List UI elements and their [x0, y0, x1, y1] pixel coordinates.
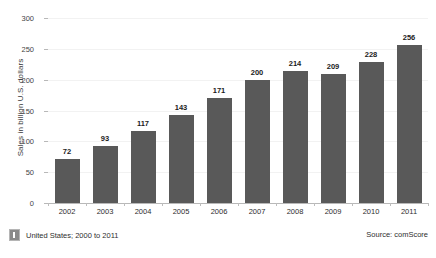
bar-group[interactable]: 256: [397, 18, 422, 203]
bar-chart-figure: Sales in billion U.S. dollars 0501001502…: [0, 0, 436, 258]
x-tick-mark: [124, 203, 125, 206]
bar-group[interactable]: 117: [131, 18, 156, 203]
bar[interactable]: [245, 80, 270, 203]
plot-area: 050100150200250300 729311714317120021420…: [48, 18, 428, 203]
bar[interactable]: [93, 146, 118, 203]
x-tick-mark: [238, 203, 239, 206]
x-tick-label-2011: 2011: [401, 207, 417, 216]
x-tick-label-2009: 2009: [325, 207, 342, 216]
bar[interactable]: [321, 74, 346, 203]
x-tick-label-2005: 2005: [173, 207, 190, 216]
x-tick-mark: [200, 203, 201, 206]
bar-series: 7293117143171200214209228256: [48, 18, 428, 203]
x-tick-label-2002: 2002: [59, 207, 76, 216]
x-tick-label-2010: 2010: [363, 207, 380, 216]
bar[interactable]: [397, 45, 422, 203]
bar-value-label: 228: [365, 50, 378, 59]
x-axis: 2002200320042005200620072008200920102011: [48, 203, 428, 219]
x-tick-mark: [162, 203, 163, 206]
x-tick-label-2007: 2007: [249, 207, 266, 216]
bar-group[interactable]: 228: [359, 18, 384, 203]
info-icon: [9, 229, 20, 241]
footer-source: Source: comScore: [366, 230, 428, 239]
footer-note: United States; 2000 to 2011: [9, 229, 118, 241]
x-tick-label-2008: 2008: [287, 207, 304, 216]
y-tick-label-200: 200: [0, 75, 34, 84]
bar-value-label: 200: [251, 68, 264, 77]
y-tick-label-250: 250: [0, 44, 34, 53]
bar[interactable]: [169, 115, 194, 203]
bar[interactable]: [131, 131, 156, 203]
x-tick-label-2006: 2006: [211, 207, 228, 216]
bar-group[interactable]: 214: [283, 18, 308, 203]
bar[interactable]: [283, 71, 308, 203]
chart-footer: United States; 2000 to 2011 Source: comS…: [0, 227, 436, 247]
y-tick-label-50: 50: [0, 168, 34, 177]
bar-value-label: 93: [101, 134, 109, 143]
y-tick-label-300: 300: [0, 14, 34, 23]
y-tick-label-0: 0: [0, 199, 34, 208]
bar-value-label: 214: [289, 59, 302, 68]
bar[interactable]: [55, 159, 80, 203]
bar-value-label: 117: [137, 119, 149, 128]
x-tick-mark: [314, 203, 315, 206]
y-tick-label-150: 150: [0, 106, 34, 115]
bar[interactable]: [359, 62, 384, 203]
x-tick-label-2004: 2004: [135, 207, 152, 216]
bar-group[interactable]: 200: [245, 18, 270, 203]
bar-group[interactable]: 93: [93, 18, 118, 203]
x-tick-label-2003: 2003: [97, 207, 114, 216]
bar-group[interactable]: 209: [321, 18, 346, 203]
bar-value-label: 143: [175, 103, 188, 112]
x-tick-mark: [352, 203, 353, 206]
bar-group[interactable]: 143: [169, 18, 194, 203]
bar-value-label: 209: [327, 62, 340, 71]
bar-value-label: 256: [403, 33, 416, 42]
bar-value-label: 171: [213, 86, 226, 95]
bar-value-label: 72: [63, 147, 71, 156]
x-tick-mark: [48, 203, 49, 206]
x-tick-mark: [86, 203, 87, 206]
bar[interactable]: [207, 98, 232, 203]
y-tick-label-100: 100: [0, 137, 34, 146]
footer-note-text: United States; 2000 to 2011: [26, 231, 118, 240]
x-tick-mark: [276, 203, 277, 206]
x-tick-mark: [428, 203, 429, 206]
x-tick-mark: [390, 203, 391, 206]
bar-group[interactable]: 171: [207, 18, 232, 203]
bar-group[interactable]: 72: [55, 18, 80, 203]
